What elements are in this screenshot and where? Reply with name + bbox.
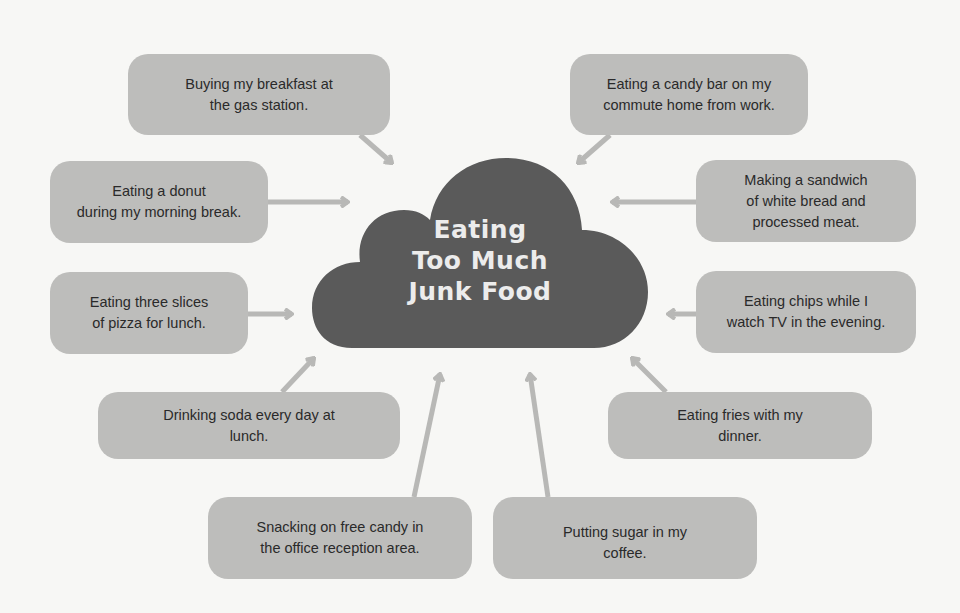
cause-sandwich-white-bread: Making a sandwich of white bread and pro…: [696, 160, 916, 242]
cause-label: Eating a donut during my morning break.: [77, 181, 241, 223]
arrow-fries: [632, 358, 666, 392]
cause-label: Snacking on free candy in the office rec…: [257, 517, 424, 559]
cause-label: Drinking soda every day at lunch.: [163, 405, 335, 447]
cause-donut-morning-break: Eating a donut during my morning break.: [50, 161, 268, 243]
cause-sugar-coffee: Putting sugar in my coffee.: [493, 497, 757, 579]
cause-label: Eating fries with my dinner.: [677, 405, 803, 447]
arrow-sugar: [530, 374, 548, 497]
center-title: Eating Too Much Junk Food: [312, 214, 648, 307]
cause-free-candy-office: Snacking on free candy in the office rec…: [208, 497, 472, 579]
center-cloud: Eating Too Much Junk Food: [312, 158, 648, 350]
cause-soda-lunch: Drinking soda every day at lunch.: [98, 392, 400, 459]
cause-chips-tv: Eating chips while I watch TV in the eve…: [696, 271, 916, 353]
cause-pizza-lunch: Eating three slices of pizza for lunch.: [50, 272, 248, 354]
arrow-soda: [282, 358, 314, 392]
cause-breakfast-gas-station: Buying my breakfast at the gas station.: [128, 54, 390, 135]
cause-label: Eating a candy bar on my commute home fr…: [603, 74, 775, 116]
diagram-canvas: Eating Too Much Junk Food Buying my brea…: [0, 0, 960, 613]
cause-label: Eating chips while I watch TV in the eve…: [727, 291, 886, 333]
cause-label: Eating three slices of pizza for lunch.: [90, 292, 208, 334]
cause-label: Buying my breakfast at the gas station.: [185, 74, 333, 116]
cause-label: Making a sandwich of white bread and pro…: [744, 170, 867, 233]
cause-candy-bar-commute: Eating a candy bar on my commute home fr…: [570, 54, 808, 135]
arrow-free-candy: [414, 374, 440, 497]
cause-fries-dinner: Eating fries with my dinner.: [608, 392, 872, 459]
cause-label: Putting sugar in my coffee.: [563, 522, 687, 564]
